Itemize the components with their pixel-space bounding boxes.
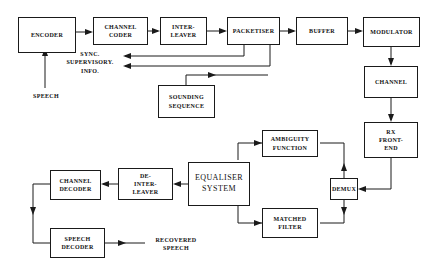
- block-speech-decoder-label: SPEECH DECODER: [60, 235, 94, 251]
- block-channel-coder[interactable]: CHANNEL CODER: [93, 17, 148, 45]
- block-channel-coder-label: CHANNEL CODER: [103, 23, 137, 39]
- arrowhead-modulator-to-channel: [388, 58, 394, 66]
- block-sounding-sequence[interactable]: SOUNDING SEQUENCE: [158, 85, 215, 118]
- block-buffer[interactable]: BUFFER: [296, 17, 348, 45]
- arrowhead-interleaver-to-packetiser: [219, 28, 227, 34]
- block-channel-decoder-label: CHANNEL DECODER: [58, 177, 92, 193]
- arrowhead-packetiser-to-sync-label: [123, 53, 131, 59]
- wire-rx-front-end-to-demux: [360, 158, 391, 189]
- block-interleaver[interactable]: INTER- LEAVER: [160, 17, 207, 45]
- arrowhead-de-interleaver-to-channel-decoder: [101, 181, 109, 187]
- block-de-interleaver-label: DE- INTER- LEAVER: [131, 172, 159, 196]
- block-equaliser-system-label: EQUALISER SYSTEM: [194, 173, 244, 195]
- wire-demux-to-ambiguity-function: [320, 143, 344, 178]
- block-demux[interactable]: DEMUX: [330, 178, 358, 200]
- arrowhead-encoder-to-channel-coder: [85, 29, 93, 35]
- arrowhead-demux-to-matched-filter: [341, 207, 347, 215]
- block-modulator-label: MODULATOR: [369, 28, 413, 36]
- block-speech-decoder[interactable]: SPEECH DECODER: [50, 228, 105, 258]
- wire-ambiguity-function-to-equaliser: [238, 143, 262, 160]
- block-equaliser-system[interactable]: EQUALISER SYSTEM: [188, 162, 250, 206]
- block-de-interleaver[interactable]: DE- INTER- LEAVER: [118, 168, 173, 200]
- arrowhead-recovered-speech: [118, 240, 126, 246]
- block-interleaver-label: INTER- LEAVER: [169, 23, 197, 39]
- arrowhead-sounding-sequence-to-packetiser: [208, 72, 216, 78]
- block-packetiser-label: PACKETISER: [232, 27, 276, 35]
- block-channel-decoder[interactable]: CHANNEL DECODER: [50, 170, 101, 200]
- block-packetiser[interactable]: PACKETISER: [227, 17, 280, 45]
- block-matched-filter[interactable]: MATCHED FILTER: [262, 208, 318, 238]
- block-buffer-label: BUFFER: [308, 27, 336, 35]
- arrowhead-rx-front-end-to-demux: [358, 186, 366, 192]
- arrowhead-channel-decoder-down: [30, 207, 36, 215]
- arrowhead-channel-coder-to-interleaver: [152, 28, 160, 34]
- block-encoder[interactable]: ENCODER: [18, 17, 76, 53]
- wire-matched-filter-to-equaliser: [238, 206, 262, 223]
- annotation-recovered-speech: RECOVERED SPEECH: [146, 236, 206, 253]
- wire-demux-to-matched-filter: [320, 200, 344, 223]
- wire-channel-decoder-to-speech-decoder: [33, 184, 50, 243]
- block-rx-front-end[interactable]: RX FRONT- END: [364, 122, 418, 158]
- block-matched-filter-label: MATCHED FILTER: [273, 215, 308, 231]
- block-channel[interactable]: CHANNEL: [364, 66, 418, 98]
- arrowhead-matched-filter-left: [254, 220, 262, 226]
- arrowhead-demux-to-ambiguity-function: [341, 163, 347, 171]
- arrowhead-packetiser-sync-branch: [123, 63, 131, 69]
- block-demux-label: DEMUX: [331, 185, 357, 193]
- block-channel-label: CHANNEL: [374, 78, 408, 86]
- arrowhead-packetiser-to-buffer: [288, 28, 296, 34]
- block-modulator[interactable]: MODULATOR: [363, 17, 420, 47]
- annotation-sync-supervisory: SYNC. SUPERVISORY. INFO.: [57, 50, 123, 75]
- arrowhead-equaliser-to-de-interleaver: [173, 181, 181, 187]
- wire-packetiser-to-sync-label: [125, 45, 244, 56]
- arrowhead-ambiguity-function-left: [254, 140, 262, 146]
- block-ambiguity-function[interactable]: AMBIGUITY FUNCTION: [262, 130, 318, 157]
- block-ambiguity-function-label: AMBIGUITY FUNCTION: [270, 135, 311, 151]
- block-sounding-sequence-label: SOUNDING SEQUENCE: [168, 93, 205, 109]
- block-encoder-label: ENCODER: [30, 31, 64, 39]
- annotation-speech-input: SPEECH: [20, 92, 72, 100]
- block-diagram: ENCODER CHANNEL CODER INTER- LEAVER PACK…: [0, 0, 440, 276]
- arrowhead-buffer-to-modulator: [355, 28, 363, 34]
- arrowhead-channel-to-rx-front-end: [388, 114, 394, 122]
- wire-sounding-sequence-to-packetiser: [186, 75, 268, 85]
- block-rx-front-end-label: RX FRONT- END: [378, 128, 404, 152]
